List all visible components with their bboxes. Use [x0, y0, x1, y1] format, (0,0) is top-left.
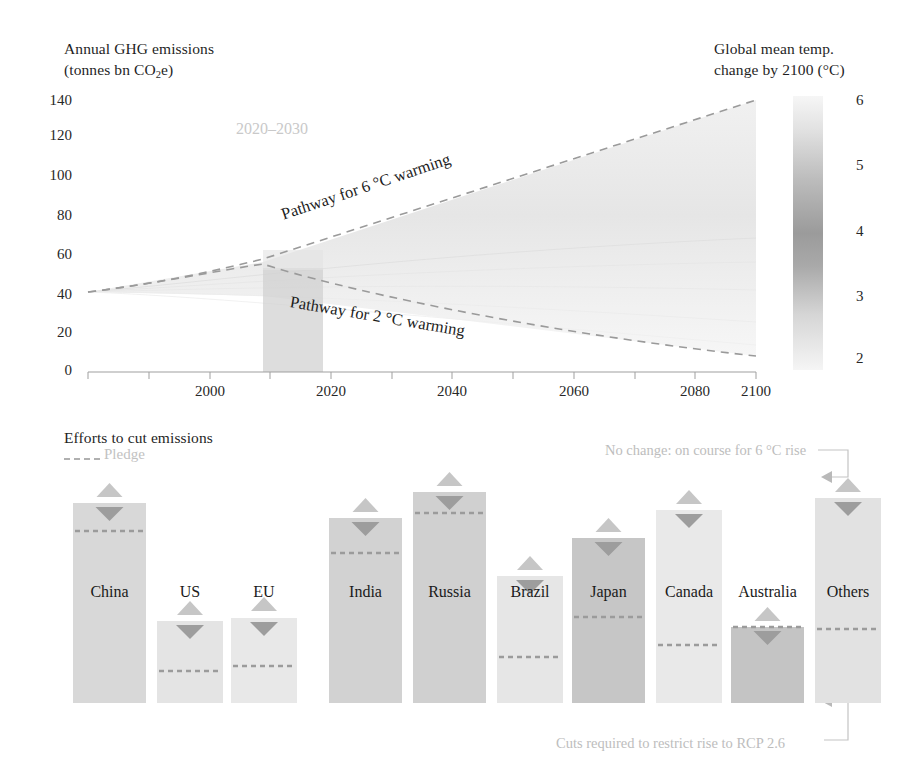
bar-group[interactable]	[731, 607, 804, 703]
bar-label: EU	[219, 583, 309, 601]
up-triangle-icon	[755, 607, 781, 621]
bar-label: Others	[803, 583, 893, 601]
up-triangle-icon	[835, 478, 861, 492]
bar-rect[interactable]	[73, 503, 146, 703]
bar-label: Russia	[401, 583, 498, 601]
bar-group[interactable]	[231, 597, 297, 703]
bar-rect[interactable]	[329, 518, 402, 703]
bar-group[interactable]	[157, 601, 223, 703]
up-triangle-icon	[97, 483, 123, 497]
bar-rect[interactable]	[572, 538, 645, 703]
bar-rect[interactable]	[656, 510, 722, 703]
country-bars-chart	[0, 0, 914, 775]
bar-label: Japan	[560, 583, 657, 601]
up-triangle-icon	[177, 601, 203, 615]
up-triangle-icon	[517, 556, 543, 570]
bar-label: India	[317, 583, 414, 601]
bar-label: Australia	[719, 583, 816, 601]
up-triangle-icon	[353, 498, 379, 512]
up-triangle-icon	[596, 518, 622, 532]
bar-label: China	[61, 583, 158, 601]
bar-group[interactable]	[497, 556, 563, 703]
bar-group[interactable]	[572, 518, 645, 703]
up-triangle-icon	[437, 472, 463, 486]
up-triangle-icon	[676, 490, 702, 504]
